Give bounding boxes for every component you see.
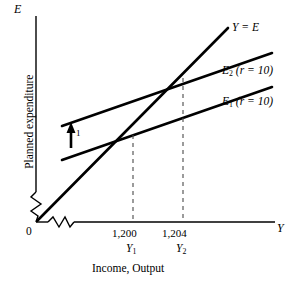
diagram-canvas — [0, 0, 290, 282]
x-tick-symbol-y1: Y1 — [126, 243, 136, 256]
curve-label-e1: E1 (r = 10) — [222, 96, 273, 109]
curve-label-e1-rate: (r = 10) — [236, 95, 273, 107]
y-axis-title: Planned expenditure — [24, 42, 36, 202]
x-tick-symbol-y2: Y2 — [176, 243, 186, 256]
x-axis-break-icon — [48, 217, 74, 227]
keynesian-cross-diagram: E Y Planned expenditure Income, Output 0… — [0, 0, 290, 282]
x-axis-symbol: Y — [277, 222, 284, 234]
curve-label-e1-subscript: 1 — [229, 100, 233, 109]
x-tick-label-1204: 1,204 — [162, 228, 187, 239]
curve-label-e2-rate: (r = 10) — [236, 64, 273, 76]
curve-label-e1-symbol: E — [222, 95, 229, 107]
y-axis-symbol: E — [14, 3, 21, 15]
x-tick-symbol-y2-subscript: 2 — [182, 247, 186, 256]
x-tick-symbol-y1-subscript: 1 — [132, 247, 136, 256]
curve-label-y-equals-e: Y = E — [232, 22, 259, 34]
curve-label-e2-symbol: E — [222, 64, 229, 76]
x-tick-label-1200: 1,200 — [112, 228, 137, 239]
shift-arrow-label: 1 — [76, 129, 81, 138]
origin-label: 0 — [26, 226, 32, 238]
x-axis-title: Income, Output — [92, 263, 164, 275]
curve-label-e2: E2 (r = 10) — [222, 65, 273, 78]
curve-label-e2-subscript: 2 — [229, 69, 233, 78]
